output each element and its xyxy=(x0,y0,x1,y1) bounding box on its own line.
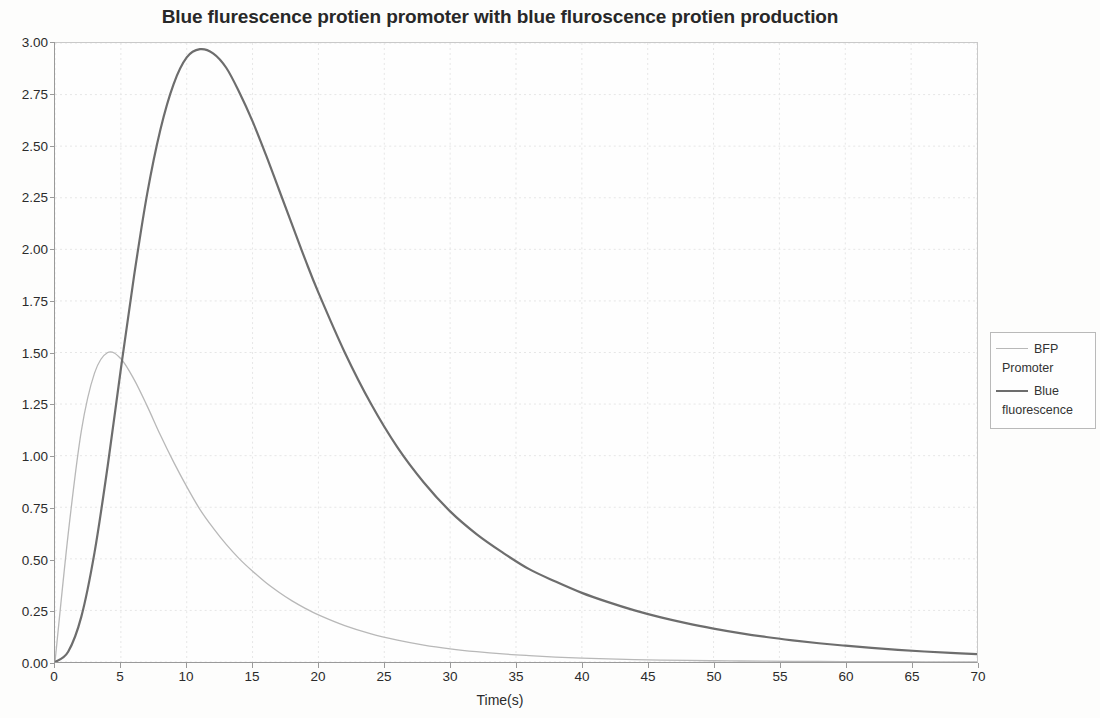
legend-line-icon-blue-fluorescence xyxy=(996,390,1028,392)
chart-page: Blue flurescence protien promoter with b… xyxy=(0,0,1100,718)
y-axis-tick-label: 2.25 xyxy=(0,190,48,205)
legend-label-bfp-promoter-line2: Promoter xyxy=(996,358,1091,379)
chart-legend: BFP Promoter Blue fluorescence xyxy=(990,332,1096,429)
y-axis-tick-label: 1.00 xyxy=(0,449,48,464)
data-curves xyxy=(55,43,977,662)
y-axis-tick-label: 0.25 xyxy=(0,604,48,619)
x-axis-tick-label: 35 xyxy=(496,669,536,684)
x-axis-tick-label: 0 xyxy=(34,669,74,684)
x-axis-tick-mark xyxy=(252,663,253,668)
x-axis-tick-mark xyxy=(450,663,451,668)
x-axis-tick-mark xyxy=(54,663,55,668)
y-axis-tick-mark xyxy=(50,301,55,302)
x-axis-tick-mark xyxy=(780,663,781,668)
y-axis-tick-mark xyxy=(50,456,55,457)
y-axis-tick-label: 3.00 xyxy=(0,35,48,50)
legend-label-blue-fluorescence-line2: fluorescence xyxy=(996,400,1091,421)
x-axis-tick-label: 50 xyxy=(694,669,734,684)
series-line-blue-fluorescence xyxy=(55,49,977,662)
y-axis-tick-mark xyxy=(50,94,55,95)
y-axis-tick-mark xyxy=(50,560,55,561)
x-axis-tick-label: 10 xyxy=(166,669,206,684)
x-axis-tick-label: 20 xyxy=(298,669,338,684)
x-axis-tick-mark xyxy=(714,663,715,668)
y-axis-tick-mark xyxy=(50,611,55,612)
page-title: Blue flurescence protien promoter with b… xyxy=(0,6,1000,28)
y-axis-tick-mark xyxy=(50,42,55,43)
x-axis-tick-label: 25 xyxy=(364,669,404,684)
y-axis-tick-label: 2.75 xyxy=(0,86,48,101)
y-axis-tick-mark xyxy=(50,146,55,147)
x-axis-tick-label: 45 xyxy=(628,669,668,684)
x-axis-tick-label: 70 xyxy=(958,669,998,684)
x-axis-tick-mark xyxy=(516,663,517,668)
y-axis-tick-mark xyxy=(50,508,55,509)
y-axis-tick-label: 1.25 xyxy=(0,397,48,412)
series-line-bfp-promoter xyxy=(55,352,977,662)
plot-area xyxy=(54,42,978,663)
y-axis-tick-label: 1.50 xyxy=(0,345,48,360)
legend-label-bfp-promoter-line1: BFP xyxy=(1034,342,1058,356)
legend-label-blue-fluorescence-line1: Blue xyxy=(1034,384,1059,398)
y-axis-tick-label: 0.75 xyxy=(0,500,48,515)
y-axis-tick-mark xyxy=(50,197,55,198)
x-axis-tick-label: 40 xyxy=(562,669,602,684)
x-axis-tick-mark xyxy=(912,663,913,668)
x-axis-tick-mark xyxy=(120,663,121,668)
y-axis-tick-mark xyxy=(50,353,55,354)
legend-entry-bfp-promoter: BFP Promoter xyxy=(996,339,1091,379)
legend-entry-blue-fluorescence: Blue fluorescence xyxy=(996,381,1091,421)
x-axis-title: Time(s) xyxy=(0,692,1000,708)
x-axis-tick-mark xyxy=(384,663,385,668)
x-axis-tick-label: 15 xyxy=(232,669,272,684)
y-axis-tick-label: 2.00 xyxy=(0,242,48,257)
x-axis-tick-mark xyxy=(648,663,649,668)
x-axis-tick-label: 65 xyxy=(892,669,932,684)
x-axis-tick-mark xyxy=(318,663,319,668)
x-axis-tick-label: 30 xyxy=(430,669,470,684)
y-axis-tick-label: 0.50 xyxy=(0,552,48,567)
x-axis-tick-label: 60 xyxy=(826,669,866,684)
x-axis-tick-mark xyxy=(186,663,187,668)
y-axis-tick-label: 1.75 xyxy=(0,293,48,308)
legend-line-icon-bfp-promoter xyxy=(996,348,1028,349)
x-axis-tick-label: 5 xyxy=(100,669,140,684)
x-axis-tick-label: 55 xyxy=(760,669,800,684)
y-axis-tick-mark xyxy=(50,404,55,405)
x-axis-tick-mark xyxy=(846,663,847,668)
x-axis-tick-mark xyxy=(582,663,583,668)
y-axis-tick-label: 2.50 xyxy=(0,138,48,153)
x-axis-tick-mark xyxy=(978,663,979,668)
y-axis-tick-mark xyxy=(50,249,55,250)
